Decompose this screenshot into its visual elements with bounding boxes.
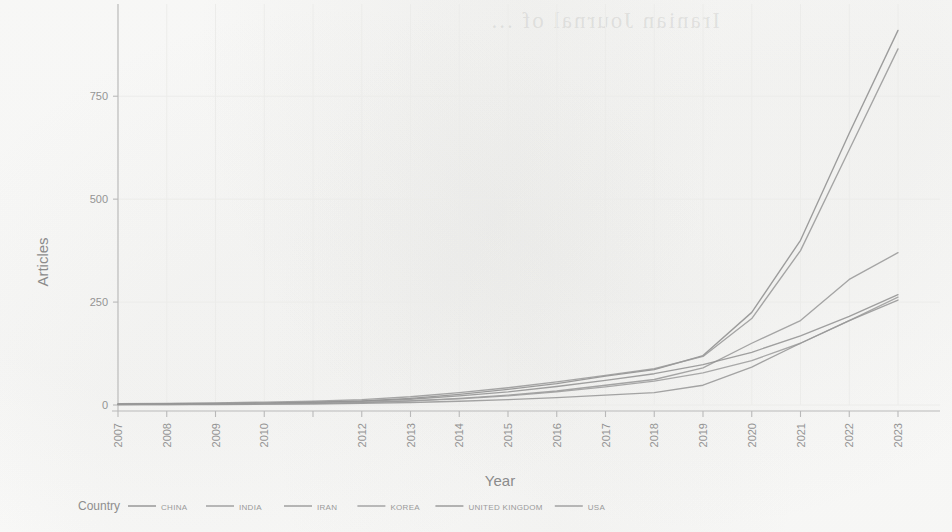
x-axis-tick-label: 2018 xyxy=(648,423,660,447)
legend-label-usa[interactable]: USA xyxy=(588,503,606,512)
line-chart: 0250500750200720082009201020122013201420… xyxy=(0,0,952,532)
x-axis-tick-label: 2014 xyxy=(453,423,465,447)
x-axis-tick-label: 2013 xyxy=(405,423,417,447)
x-axis-tick-label: 2021 xyxy=(795,423,807,447)
x-axis-tick-label: 2010 xyxy=(258,423,270,447)
legend-label-india[interactable]: INDIA xyxy=(239,503,262,512)
chart-legend: Country CHINAINDIAIRANKOREAUNITED KINGDO… xyxy=(78,499,606,513)
x-axis-tick-label: 2009 xyxy=(210,423,222,447)
x-axis-tick-label: 2023 xyxy=(892,423,904,447)
legend-label-korea[interactable]: KOREA xyxy=(390,503,420,512)
x-axis-title: Year xyxy=(485,472,515,489)
x-axis-tick-label: 2019 xyxy=(697,423,709,447)
legend-label-united-kingdom[interactable]: UNITED KINGDOM xyxy=(468,503,542,512)
x-axis-tick-label: 2016 xyxy=(551,423,563,447)
y-axis-title: Articles xyxy=(34,237,51,286)
x-axis-tick-label: 2022 xyxy=(843,423,855,447)
y-axis-tick-label: 500 xyxy=(90,193,108,205)
legend-label-china[interactable]: CHINA xyxy=(161,503,188,512)
legend-label-iran[interactable]: IRAN xyxy=(317,503,337,512)
x-axis-tick-label: 2017 xyxy=(600,423,612,447)
x-axis-tick-label: 2015 xyxy=(502,423,514,447)
x-axis-tick-label: 2007 xyxy=(112,423,124,447)
x-axis-tick-label: 2020 xyxy=(746,423,758,447)
chart-canvas: 0250500750200720082009201020122013201420… xyxy=(0,0,952,532)
axis-ticks xyxy=(113,96,898,417)
legend-title: Country xyxy=(78,499,120,513)
y-axis-tick-label: 750 xyxy=(90,90,108,102)
y-axis-tick-label: 250 xyxy=(90,296,108,308)
y-axis-tick-label: 0 xyxy=(102,399,108,411)
x-axis-tick-label: 2008 xyxy=(161,423,173,447)
x-axis-tick-label: 2012 xyxy=(356,423,368,447)
